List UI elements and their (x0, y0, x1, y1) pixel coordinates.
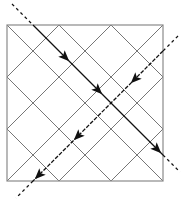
dashed-exit-line (163, 155, 180, 172)
diamond-lattice-diagram (0, 0, 189, 201)
dashed-exit-line (16, 181, 33, 198)
diagram-canvas (0, 0, 189, 201)
dashed-entry-line (12, 4, 33, 25)
diamond-tiles (0, 0, 189, 201)
dashed-entry-line (163, 36, 178, 51)
